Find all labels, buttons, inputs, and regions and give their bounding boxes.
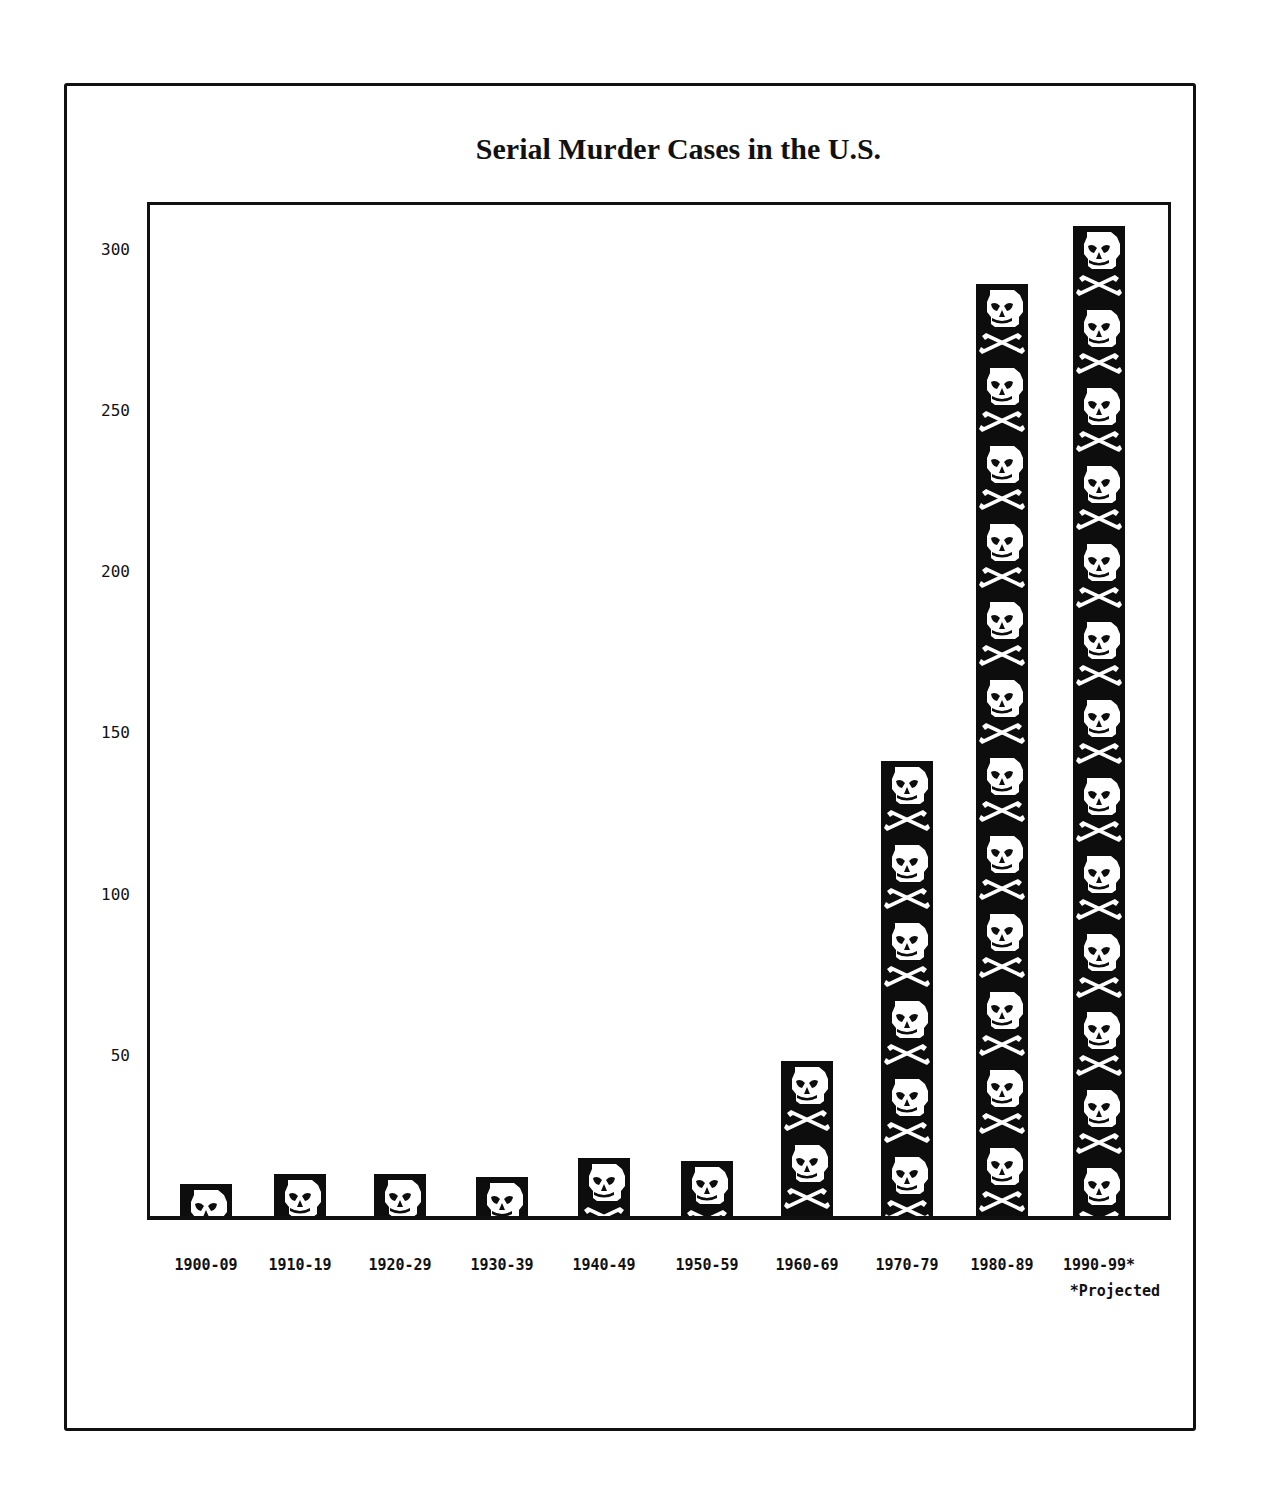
skull-crossbones-icon	[1073, 226, 1125, 304]
x-tick-label: 1910-19	[250, 1256, 350, 1274]
skull-crossbones-icon	[1073, 304, 1125, 382]
x-tick-label: 1920-29	[350, 1256, 450, 1274]
bar-1970-79	[881, 761, 933, 1216]
skull-crossbones-icon	[976, 986, 1028, 1064]
skull-crossbones-icon	[881, 761, 933, 839]
skull-crossbones-icon	[180, 1184, 232, 1216]
skull-crossbones-icon	[976, 518, 1028, 596]
skull-crossbones-icon	[1073, 538, 1125, 616]
bar-1900-09	[180, 1184, 232, 1216]
skull-crossbones-icon	[1073, 772, 1125, 850]
x-tick-label: 1960-69	[757, 1256, 857, 1274]
y-tick-label: 300	[70, 239, 130, 258]
skull-crossbones-icon	[976, 674, 1028, 752]
skull-crossbones-icon	[976, 830, 1028, 908]
bar-1940-49	[578, 1158, 630, 1216]
bar-1980-89	[976, 284, 1028, 1216]
skull-crossbones-icon	[1073, 850, 1125, 928]
skull-crossbones-icon	[976, 284, 1028, 362]
skull-crossbones-icon	[976, 752, 1028, 830]
skull-crossbones-icon	[881, 1151, 933, 1216]
skull-crossbones-icon	[976, 908, 1028, 986]
skull-crossbones-icon	[374, 1174, 426, 1216]
skull-crossbones-icon	[881, 995, 933, 1073]
skull-crossbones-icon	[1073, 382, 1125, 460]
skull-crossbones-icon	[1073, 1084, 1125, 1162]
skull-crossbones-icon	[881, 1073, 933, 1151]
y-tick-label: 100	[70, 884, 130, 903]
x-tick-label: 1980-89	[952, 1256, 1052, 1274]
skull-crossbones-icon	[274, 1174, 326, 1216]
y-tick-label: 150	[70, 723, 130, 742]
skull-crossbones-icon	[681, 1161, 733, 1216]
skull-crossbones-icon	[881, 839, 933, 917]
projected-footnote: *Projected	[1060, 1282, 1160, 1300]
skull-crossbones-icon	[578, 1158, 630, 1216]
y-tick-label: 50	[70, 1045, 130, 1064]
chart-title: Serial Murder Cases in the U.S.	[0, 132, 1267, 166]
skull-crossbones-icon	[1073, 1162, 1125, 1216]
y-tick-label: 200	[70, 562, 130, 581]
skull-crossbones-icon	[1073, 928, 1125, 1006]
skull-crossbones-icon	[1073, 460, 1125, 538]
x-tick-label: 1930-39	[452, 1256, 552, 1274]
y-tick-label: 250	[70, 400, 130, 419]
x-tick-label: 1950-59	[657, 1256, 757, 1274]
skull-crossbones-icon	[1073, 1006, 1125, 1084]
skull-crossbones-icon	[1073, 616, 1125, 694]
skull-crossbones-icon	[881, 917, 933, 995]
bar-1930-39	[476, 1177, 528, 1216]
skull-crossbones-icon	[781, 1061, 833, 1139]
bar-1910-19	[274, 1174, 326, 1216]
x-tick-label: 1970-79	[857, 1256, 957, 1274]
bar-1920-29	[374, 1174, 426, 1216]
bar-1990-99	[1073, 226, 1125, 1216]
x-tick-label: 1900-09	[156, 1256, 256, 1274]
bar-1950-59	[681, 1161, 733, 1216]
skull-crossbones-icon	[976, 596, 1028, 674]
x-tick-label: 1990-99*	[1049, 1256, 1149, 1274]
skull-crossbones-icon	[781, 1139, 833, 1216]
bar-1960-69	[781, 1061, 833, 1216]
skull-crossbones-icon	[976, 1142, 1028, 1216]
skull-crossbones-icon	[476, 1177, 528, 1216]
skull-crossbones-icon	[976, 440, 1028, 518]
x-tick-label: 1940-49	[554, 1256, 654, 1274]
skull-crossbones-icon	[976, 362, 1028, 440]
skull-crossbones-icon	[1073, 694, 1125, 772]
skull-crossbones-icon	[976, 1064, 1028, 1142]
